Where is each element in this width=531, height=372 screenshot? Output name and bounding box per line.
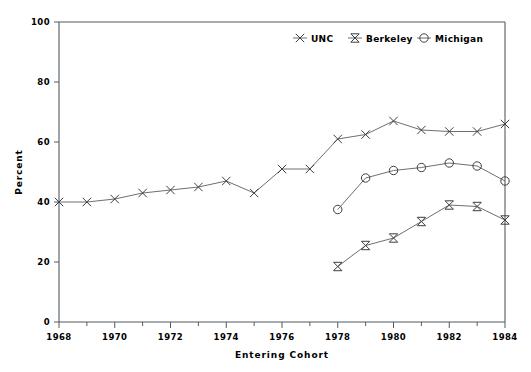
x-tick-label: 1984 [492, 332, 517, 342]
data-point-unc-1975 [250, 189, 258, 197]
x-tick-label: 1980 [381, 332, 406, 342]
x-axis-title: Entering Cohort [235, 350, 329, 360]
series-michigan [334, 159, 510, 214]
legend-label-unc: UNC [311, 34, 333, 44]
data-point-berkeley-1979 [361, 241, 369, 249]
data-point-berkeley-1978 [334, 262, 342, 270]
x-tick-label: 1972 [158, 332, 183, 342]
x-tick-label: 1982 [437, 332, 462, 342]
line-chart: 020406080100 196819701972197419761978198… [0, 0, 531, 372]
data-point-unc-1974 [222, 177, 230, 185]
legend-item-berkeley: Berkeley [348, 34, 413, 44]
y-tick-label: 80 [37, 77, 50, 87]
series-line-unc [59, 121, 505, 202]
y-tick-label: 40 [37, 197, 50, 207]
data-point-berkeley-1981 [417, 217, 425, 225]
x-tick-label: 1968 [46, 332, 71, 342]
series-layer [55, 117, 509, 271]
axes-group [59, 22, 505, 322]
x-tick-label: 1970 [102, 332, 127, 342]
series-unc [55, 117, 509, 206]
legend-item-unc: UNC [293, 34, 333, 44]
series-line-berkeley [338, 205, 505, 267]
x-axis-ticks: 196819701972197419761978198019821984 [46, 322, 517, 342]
data-point-berkeley-1980 [389, 234, 397, 242]
y-tick-label: 60 [37, 137, 50, 147]
legend-label-berkeley: Berkeley [366, 34, 413, 44]
series-berkeley [334, 201, 510, 271]
y-tick-label: 100 [31, 17, 50, 27]
x-tick-label: 1978 [325, 332, 350, 342]
data-point-unc-1980 [389, 117, 397, 125]
y-axis-ticks: 020406080100 [31, 17, 59, 327]
y-axis-title: Percent [14, 149, 24, 195]
chart-legend: UNCBerkeleyMichigan [293, 34, 483, 44]
x-tick-label: 1974 [214, 332, 239, 342]
legend-item-michigan: Michigan [417, 34, 483, 44]
y-tick-label: 20 [37, 257, 50, 267]
y-tick-label: 0 [44, 317, 50, 327]
x-tick-label: 1976 [269, 332, 294, 342]
legend-label-michigan: Michigan [435, 34, 483, 44]
chart-container: 020406080100 196819701972197419761978198… [0, 0, 531, 372]
